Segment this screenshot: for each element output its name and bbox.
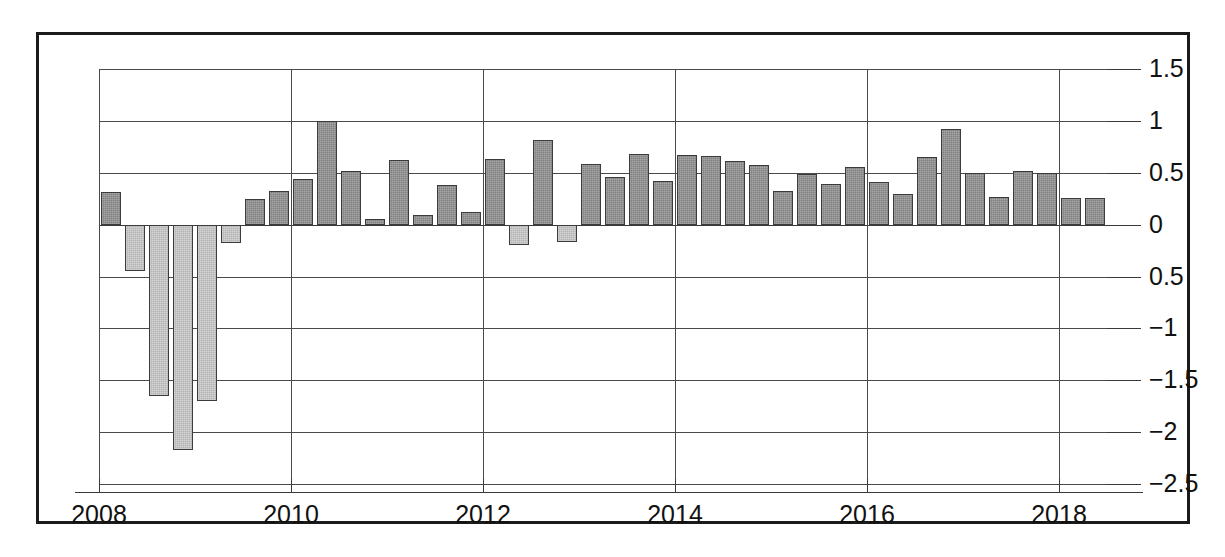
bar: [317, 121, 336, 225]
x-tick-2016: [867, 478, 868, 492]
bar: [1061, 198, 1080, 225]
x-axis-label: 2016: [839, 502, 895, 527]
bar: [101, 192, 120, 224]
y-axis-label: −2: [1149, 419, 1178, 444]
chart-frame: 1.510.500.5−1−1.5−2−2.5 2008201020122014…: [36, 32, 1190, 524]
bar: [749, 165, 768, 224]
bar: [941, 129, 960, 224]
gridline-y-−2: [99, 432, 1107, 433]
y-tick-0: [1107, 225, 1141, 226]
y-axis-label: −2.5: [1149, 471, 1198, 496]
bar: [221, 225, 240, 244]
y-tick-−2: [1107, 432, 1141, 433]
bar: [1037, 173, 1056, 225]
bar: [965, 173, 984, 225]
gridline-y-1.5: [99, 69, 1107, 70]
bar: [797, 174, 816, 225]
y-axis-label: 0.5: [1149, 160, 1184, 185]
x-axis-label: 2008: [71, 502, 127, 527]
x-axis-label: 2010: [263, 502, 319, 527]
bar: [1013, 171, 1032, 225]
x-tick-2018: [1059, 478, 1060, 492]
y-tick-1: [1107, 121, 1141, 122]
bar: [197, 225, 216, 401]
y-tick-0.5: [1107, 173, 1141, 174]
bar: [365, 219, 384, 224]
gridline-y-0.5: [99, 277, 1107, 278]
bar: [677, 155, 696, 225]
gridline-x-2010: [291, 69, 292, 484]
bar: [845, 167, 864, 225]
bar: [629, 154, 648, 225]
bar: [893, 194, 912, 225]
bar: [1085, 198, 1104, 225]
plot-area: [99, 69, 1107, 484]
bar: [269, 191, 288, 224]
gridline-y-−1: [99, 328, 1107, 329]
y-tick-−1: [1107, 328, 1141, 329]
x-axis-line: [75, 492, 1143, 493]
bar: [389, 160, 408, 224]
y-axis-label: 0: [1149, 212, 1163, 237]
y-axis-label: 0.5: [1149, 264, 1184, 289]
x-axis-label: 2012: [455, 502, 511, 527]
bar: [581, 164, 600, 224]
chart-figure: 1.510.500.5−1−1.5−2−2.5 2008201020122014…: [0, 0, 1225, 557]
bar: [341, 171, 360, 225]
x-tick-2012: [483, 478, 484, 492]
bar: [725, 161, 744, 224]
bar: [653, 181, 672, 225]
bar: [149, 225, 168, 396]
y-tick-0.5: [1107, 277, 1141, 278]
y-tick-1.5: [1107, 69, 1141, 70]
bar: [461, 212, 480, 224]
y-tick-−2.5: [1107, 484, 1141, 485]
y-tick-−1.5: [1107, 380, 1141, 381]
bar: [485, 159, 504, 224]
x-tick-2008: [99, 478, 100, 492]
bar: [605, 177, 624, 225]
bar: [821, 184, 840, 224]
y-axis-label: 1: [1149, 108, 1163, 133]
y-axis-label: −1.5: [1149, 367, 1198, 392]
bar: [701, 156, 720, 224]
gridline-y-−1.5: [99, 380, 1107, 381]
gridline-y-1: [99, 121, 1107, 122]
x-tick-2010: [291, 478, 292, 492]
gridline-x-2012: [483, 69, 484, 484]
gridline-x-2014: [675, 69, 676, 484]
bar: [293, 179, 312, 225]
gridline-x-2016: [867, 69, 868, 484]
gridline-y-−2.5: [99, 484, 1107, 485]
gridline-x-2008: [99, 69, 100, 484]
x-tick-2014: [675, 478, 676, 492]
bar: [989, 197, 1008, 225]
bar: [245, 199, 264, 225]
x-axis-label: 2018: [1031, 502, 1087, 527]
bar: [557, 225, 576, 243]
bar: [437, 185, 456, 224]
gridline-y-0: [99, 225, 1107, 226]
bar: [125, 225, 144, 272]
gridline-x-2018: [1059, 69, 1060, 484]
y-axis-label: −1: [1149, 315, 1178, 340]
bar: [413, 215, 432, 224]
bar: [869, 182, 888, 225]
bar: [533, 140, 552, 225]
bar: [509, 225, 528, 246]
bar: [773, 191, 792, 224]
bar: [917, 157, 936, 224]
y-axis-label: 1.5: [1149, 56, 1184, 81]
bar: [173, 225, 192, 450]
x-axis-label: 2014: [647, 502, 703, 527]
